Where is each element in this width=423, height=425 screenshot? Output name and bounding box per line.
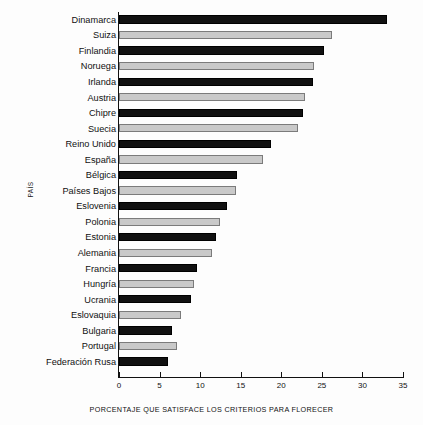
category-label: Países Bajos [4,186,116,196]
bar-row: Chipre [0,105,423,121]
bar-track [119,28,415,44]
x-axis-tick [200,372,201,378]
category-label: Bélgica [4,170,116,180]
x-axis-tick-label: 5 [148,381,172,390]
bar-rows: DinamarcaSuizaFinlandiaNoruegaIrlandaAus… [0,12,423,370]
bar-track [119,338,415,354]
bar-track [119,90,415,106]
bar [119,46,324,54]
x-axis-tick-label: 35 [391,381,415,390]
bar-track [119,12,415,28]
bar-track [119,136,415,152]
category-label: Hungría [4,279,116,289]
category-label: Austria [4,93,116,103]
bar-track [119,354,415,370]
bar-chart: PAÍS DinamarcaSuizaFinlandiaNoruegaIrlan… [0,0,423,425]
bar-track [119,261,415,277]
bar [119,311,181,319]
bar-track [119,245,415,261]
x-axis-tick [119,372,120,378]
bar-row: Suiza [0,28,423,44]
x-axis-tick [403,372,404,378]
bar-row: Estonia [0,230,423,246]
plot-area: DinamarcaSuizaFinlandiaNoruegaIrlandaAus… [0,12,423,377]
bar-row: Portugal [0,338,423,354]
bar-track [119,105,415,121]
bar [119,326,172,334]
x-axis-tick [322,372,323,378]
category-label: Alemania [4,248,116,258]
x-axis-tick-label: 0 [107,381,131,390]
bar-track [119,74,415,90]
bar [119,280,194,288]
bar-row: Austria [0,90,423,106]
category-label: Suiza [4,30,116,40]
bar [119,233,216,241]
bar-track [119,199,415,215]
bar [119,78,313,86]
bar-track [119,276,415,292]
category-label: Reino Unido [4,139,116,149]
bar-row: España [0,152,423,168]
bar-row: Dinamarca [0,12,423,28]
bar [119,140,271,148]
x-axis-tick-label: 15 [229,381,253,390]
bar-row: Bélgica [0,167,423,183]
bar [119,202,227,210]
category-label: Noruega [4,61,116,71]
bar-track [119,307,415,323]
bar [119,155,263,163]
bar [119,124,298,132]
bar-row: Francia [0,261,423,277]
bar-row: Ucrania [0,292,423,308]
category-label: Dinamarca [4,15,116,25]
bar [119,295,191,303]
bar [119,186,236,194]
category-label: Eslovaquia [4,310,116,320]
bar [119,109,303,117]
bar [119,264,197,272]
x-axis-tick-label: 20 [269,381,293,390]
bar-row: Hungría [0,276,423,292]
x-axis-caption: PORCENTAJE QUE SATISFACE LOS CRITERIOS P… [0,405,423,414]
x-axis-tick [241,372,242,378]
bar-track [119,167,415,183]
category-label: Ucrania [4,295,116,305]
bar-track [119,183,415,199]
x-axis-tick-label: 30 [350,381,374,390]
bar-row: Suecia [0,121,423,137]
bar-track [119,43,415,59]
bar-row: Federación Rusa [0,354,423,370]
bar-row: Finlandia [0,43,423,59]
category-label: España [4,155,116,165]
category-label: Chipre [4,108,116,118]
x-axis-tick-label: 10 [188,381,212,390]
bar-track [119,152,415,168]
bar [119,171,237,179]
bar-row: Alemania [0,245,423,261]
y-axis-line [118,12,119,378]
bar [119,31,332,39]
bar-track [119,121,415,137]
category-label: Francia [4,264,116,274]
category-label: Suecia [4,124,116,134]
bar-row: Reino Unido [0,136,423,152]
bar-row: Noruega [0,59,423,75]
x-axis-tick [160,372,161,378]
bar-track [119,292,415,308]
category-label: Bulgaria [4,326,116,336]
bar-row: Bulgaria [0,323,423,339]
category-label: Eslovenia [4,201,116,211]
bar [119,342,177,350]
bar-track [119,214,415,230]
bar-row: Eslovenia [0,199,423,215]
bar-row: Polonia [0,214,423,230]
bar-row: Países Bajos [0,183,423,199]
bar [119,218,220,226]
bar-track [119,59,415,75]
bar [119,62,314,70]
category-label: Finlandia [4,46,116,56]
category-label: Estonia [4,232,116,242]
bar [119,249,212,257]
x-axis-tick-label: 25 [310,381,334,390]
